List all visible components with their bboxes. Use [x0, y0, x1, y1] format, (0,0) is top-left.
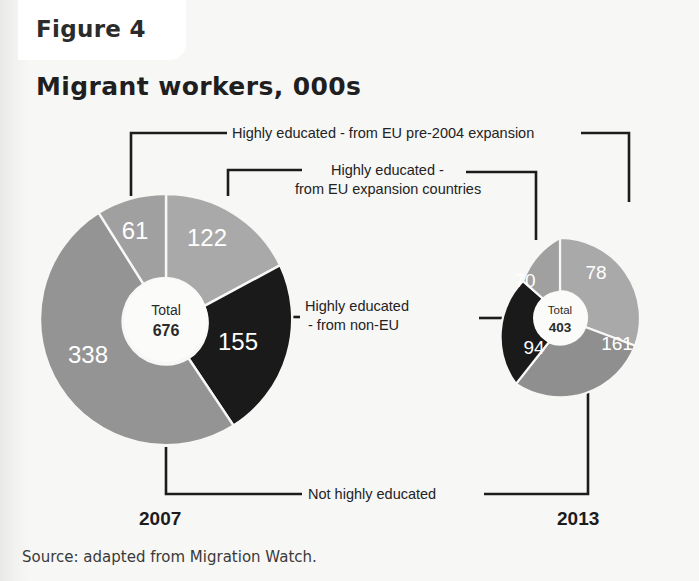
donut-2013-total-value: 403 — [549, 320, 572, 335]
slice-label-2007-61: 61 — [122, 217, 149, 245]
source-note: Source: adapted from Migration Watch. — [22, 548, 317, 566]
slice-label-2013-78: 78 — [585, 262, 606, 284]
annotation-highly-educated-pre2004: Highly educated - from EU pre-2004 expan… — [232, 124, 534, 142]
slice-label-2013-94: 94 — [523, 337, 544, 359]
slice-label-2007-338: 338 — [68, 341, 108, 369]
donut-2007-total-word: Total — [151, 302, 181, 318]
year-label-2013: 2013 — [557, 508, 599, 530]
slice-label-2007-155: 155 — [218, 328, 258, 356]
donut-2007-total-value: 676 — [153, 322, 180, 340]
slice-label-2013-161: 161 — [601, 333, 633, 355]
figure-panel: Figure 4 Migrant workers, 000s — [0, 0, 699, 581]
annotation-not-highly-educated: Not highly educated — [308, 485, 436, 503]
donut-2007 — [40, 194, 292, 445]
donut-2013 — [501, 238, 640, 397]
annotation-eu-expansion-line1: Highly educated - — [331, 161, 444, 179]
donut-2013-total-word: Total — [548, 304, 572, 316]
annotation-eu-expansion-line2: from EU expansion countries — [295, 180, 481, 198]
annotation-non-eu-line1: Highly educated — [305, 297, 409, 315]
year-label-2007: 2007 — [139, 508, 181, 530]
slice-label-2007-122: 122 — [187, 224, 227, 252]
annotation-non-eu-line2: - from non-EU — [308, 316, 399, 334]
donut-2007-hub — [124, 278, 208, 362]
slice-label-2013-70: 70 — [514, 270, 535, 292]
